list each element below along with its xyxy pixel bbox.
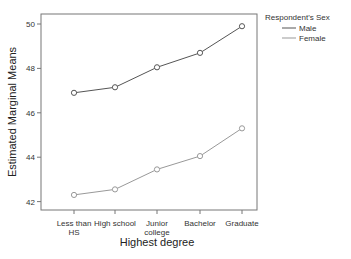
data-point: [154, 65, 159, 70]
y-axis: 4244464850: [26, 20, 41, 207]
y-tick-label: 44: [26, 153, 35, 162]
y-axis-title: Estimated Marginal Means: [6, 46, 18, 177]
y-tick-label: 42: [26, 198, 35, 207]
y-tick-label: 50: [26, 20, 35, 29]
data-point: [154, 167, 159, 172]
data-point: [71, 192, 76, 197]
x-axis: Less thanHSHigh schoolJuniorcollegeBache…: [57, 210, 260, 237]
data-point: [239, 126, 244, 131]
x-axis-title: Highest degree: [120, 236, 195, 248]
data-point: [197, 50, 202, 55]
legend-label: Female: [299, 34, 326, 43]
legend: Respondent's Sex MaleFemale: [265, 13, 330, 43]
y-tick-label: 48: [26, 64, 35, 73]
plot-frame: [41, 14, 257, 210]
data-point: [239, 24, 244, 29]
x-tick-label: HS: [68, 228, 79, 237]
data-point: [112, 85, 117, 90]
data-point: [197, 153, 202, 158]
legend-label: Male: [299, 24, 317, 33]
legend-title: Respondent's Sex: [265, 13, 330, 22]
x-tick-label: Bachelor: [184, 219, 216, 228]
data-point: [112, 187, 117, 192]
y-tick-label: 46: [26, 109, 35, 118]
data-point: [71, 90, 76, 95]
x-tick-label: High school: [94, 219, 136, 228]
x-tick-label: Graduate: [225, 219, 259, 228]
x-tick-label: Less than: [57, 219, 92, 228]
line-chart: 4244464850 Less thanHSHigh schoolJuniorc…: [0, 0, 351, 259]
x-tick-label: Junior: [146, 219, 168, 228]
